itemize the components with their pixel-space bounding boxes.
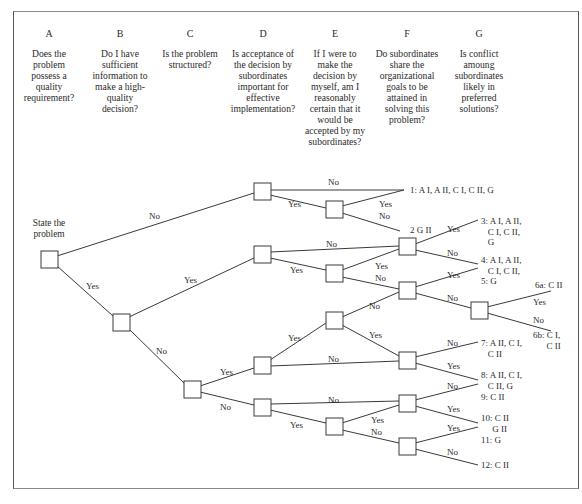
outcome-7: 7: A II, C I, C II xyxy=(481,338,522,359)
branch-label-yes: Yes xyxy=(533,297,546,307)
node-g xyxy=(471,302,488,319)
branch-label-no: No xyxy=(328,395,339,405)
branch-label-no: No xyxy=(447,248,458,258)
branch-label-yes: Yes xyxy=(447,361,460,371)
branch-label-no: No xyxy=(328,354,339,364)
branch-label-yes: Yes xyxy=(290,265,303,275)
node-f1 xyxy=(399,238,416,255)
outcome-12: 12: C II xyxy=(481,460,509,471)
branch-label-yes: Yes xyxy=(220,367,233,377)
branch-label-yes: Yes xyxy=(184,275,197,285)
branch-label-yes: Yes xyxy=(375,261,388,271)
branch-label-no: No xyxy=(447,338,458,348)
outcome-9: 9: C II xyxy=(481,392,505,403)
node-f2 xyxy=(399,282,416,299)
branch-label-no: No xyxy=(328,177,339,187)
outcome-8: 8: A II, C I, C II, G xyxy=(481,370,522,391)
node-e2 xyxy=(326,265,343,282)
branch-label-yes: Yes xyxy=(379,199,392,209)
branch-label-no: No xyxy=(220,402,231,412)
node-e1 xyxy=(326,201,343,218)
node-f3 xyxy=(399,352,416,369)
node-b xyxy=(113,314,130,331)
branch-label-yes: Yes xyxy=(290,420,303,430)
branch-label-no: No xyxy=(379,211,390,221)
branch-label-yes: Yes xyxy=(288,333,301,343)
branch-label-no: No xyxy=(533,315,544,325)
branch-label-no: No xyxy=(149,211,160,221)
branch-label-yes: Yes xyxy=(86,281,99,291)
branch-label-yes: Yes xyxy=(447,404,460,414)
branch-label-no: No xyxy=(447,447,458,457)
outcome-1: 1: A I, A II, C I, C II, G xyxy=(410,185,494,196)
branch-label-no: No xyxy=(326,239,337,249)
branch-label-yes: Yes xyxy=(447,270,460,280)
node-d1 xyxy=(254,183,271,200)
node-d3 xyxy=(254,357,271,374)
outcome-2: 2 G II xyxy=(410,225,432,236)
outcome-10: 10: C II G II xyxy=(481,413,509,434)
node-a xyxy=(41,251,58,268)
branch-label-yes: Yes xyxy=(447,423,460,433)
outcome-4: 4: A I, A II, C I, C II, xyxy=(481,255,522,276)
outcome-5: 5: G xyxy=(481,276,497,287)
node-e4 xyxy=(326,418,343,435)
node-f5 xyxy=(399,438,416,455)
outcome-6a: 6a: C II xyxy=(535,280,563,291)
branch-label-no: No xyxy=(369,301,380,311)
branch-label-yes: Yes xyxy=(447,224,460,234)
branch-label-no: No xyxy=(375,273,386,283)
node-d2 xyxy=(254,246,271,263)
branch-label-yes: Yes xyxy=(369,330,382,340)
branch-label-no: No xyxy=(447,293,458,303)
node-f4 xyxy=(399,395,416,412)
node-c xyxy=(184,381,201,398)
outcome-11: 11: G xyxy=(481,435,501,446)
branch-label-yes: Yes xyxy=(371,415,384,425)
branch-label-yes: Yes xyxy=(288,199,301,209)
outcome-3: 3: A I, A II, C I, C II, G xyxy=(481,216,522,248)
node-e3 xyxy=(326,312,343,329)
outcome-6b: 6b: C I, C II xyxy=(533,330,561,351)
branch-label-no: No xyxy=(447,381,458,391)
branch-label-no: No xyxy=(371,427,382,437)
branch-label-no: No xyxy=(156,346,167,356)
node-d4 xyxy=(254,399,271,416)
